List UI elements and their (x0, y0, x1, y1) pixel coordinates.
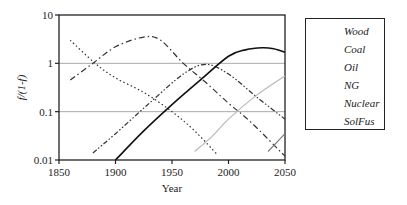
legend-label: Coal (344, 41, 365, 57)
series-wood (70, 40, 217, 154)
legend-item-wood: Wood (308, 23, 384, 39)
series-solfus (268, 134, 285, 152)
plot-frame (59, 15, 285, 160)
series-oil (93, 64, 285, 153)
y-tick-label: 0.01 (34, 154, 53, 166)
legend-item-solfus: SolFus (308, 113, 384, 129)
y-tick-label: 10 (42, 9, 54, 21)
legend-item-coal: Coal (308, 41, 384, 57)
legend-label: Wood (344, 23, 369, 39)
plot-area: 0.010.111018501900195020002050Yearf/(1-f… (15, 9, 297, 194)
series-ng (116, 48, 286, 160)
legend-label: Nuclear (344, 95, 379, 111)
y-tick-label: 0.1 (39, 106, 53, 118)
y-tick-label: 1 (48, 57, 54, 69)
legend-item-oil: Oil (308, 59, 384, 75)
x-tick-label: 2050 (274, 166, 297, 178)
x-tick-label: 2000 (218, 166, 241, 178)
series-coal (70, 36, 285, 156)
y-axis-label: f/(1-f) (15, 74, 28, 100)
legend-label: NG (344, 77, 359, 93)
series-nuclear (195, 76, 285, 152)
x-tick-label: 1850 (48, 166, 71, 178)
legend: Wood Coal Oil NG Nuclear SolFus (305, 18, 385, 130)
legend-item-ng: NG (308, 77, 384, 93)
legend-item-nuclear: Nuclear (308, 95, 384, 111)
legend-label: Oil (344, 59, 358, 75)
legend-label: SolFus (344, 113, 375, 129)
x-tick-label: 1950 (161, 166, 184, 178)
x-tick-label: 1900 (105, 166, 128, 178)
x-axis-label: Year (162, 182, 183, 194)
